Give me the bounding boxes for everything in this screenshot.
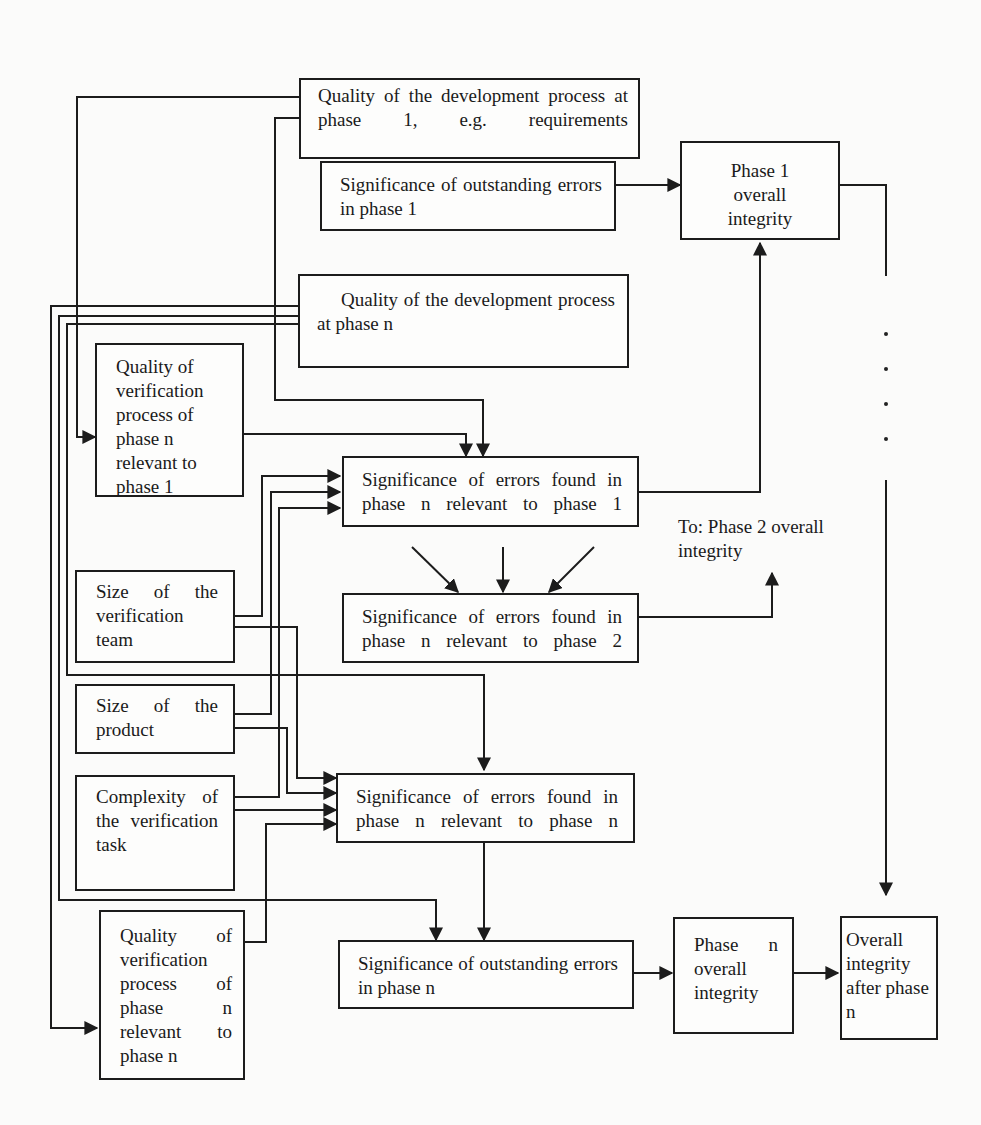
to-phase2-label: To: Phase 2 overall integrity — [678, 515, 848, 563]
box-label: Phase n overall integrity — [694, 933, 778, 1005]
box-outstanding-phase1: Significance of outstanding errors in ph… — [320, 161, 616, 231]
arrow-rel1-rel2-left — [412, 547, 458, 592]
box-phasen-integrity: Phase n overall integrity — [673, 917, 794, 1034]
box-errors-found-reln: Significance of errors found in phase n … — [336, 773, 635, 843]
line-product-to-reln — [233, 728, 336, 793]
box-label: Significance of errors found in phase n … — [362, 468, 622, 516]
box-dev-quality-phasen: Quality of the development process at ph… — [298, 274, 629, 368]
box-outstanding-phasen: Significance of outstanding errors in ph… — [338, 940, 634, 1009]
box-label: Complexity of the verification task — [96, 785, 218, 857]
box-label: Size of the product — [96, 694, 218, 742]
box-verif-quality-rel1: Quality of verification process of phase… — [95, 343, 244, 497]
box-label: Quality of the development process at ph… — [317, 288, 615, 336]
box-label: Quality of verification process of phase… — [120, 924, 232, 1068]
box-product-size: Size of the product — [75, 684, 235, 754]
box-errors-found-rel1: Significance of errors found in phase n … — [342, 456, 639, 527]
box-verif-quality-reln: Quality of verification process of phase… — [99, 910, 245, 1080]
box-dev-quality-phase1: Quality of the development process at ph… — [299, 78, 640, 159]
line-team-to-rel1 — [233, 476, 340, 616]
box-phase1-integrity: Phase 1 overall integrity — [680, 141, 840, 240]
ellipsis-dot — [884, 437, 888, 441]
arrow-rel2-to-phase2 — [638, 573, 772, 617]
box-verif-team-size: Size of the verification team — [75, 570, 235, 663]
box-label: Quality of the development process at ph… — [318, 84, 628, 132]
box-label: Quality of verification process of phase… — [116, 355, 231, 499]
line-team-to-reln — [233, 627, 336, 778]
arrow-rel1-rel2-right — [549, 547, 594, 592]
ellipsis-dot — [884, 367, 888, 371]
line-phase1-to-overall — [839, 185, 886, 276]
box-label: Significance of outstanding errors in ph… — [340, 173, 602, 221]
box-errors-found-rel2: Significance of errors found in phase n … — [342, 593, 639, 663]
line-product-to-rel1 — [233, 492, 340, 714]
box-label: Size of the verification team — [96, 580, 218, 652]
ellipsis-dot — [884, 332, 888, 336]
box-label: Significance of errors found in phase n … — [362, 605, 622, 653]
arrow-rel1-to-phase1 — [638, 243, 760, 492]
line-verifq1-to-rel1 — [243, 434, 466, 456]
box-label: Significance of outstanding errors in ph… — [358, 952, 618, 1000]
ellipsis-dot — [884, 402, 888, 406]
line-verifqn-to-reln — [243, 824, 336, 942]
box-label: Significance of errors found in phase n … — [356, 785, 618, 833]
box-label: Phase 1 overall integrity — [706, 159, 814, 231]
box-verif-complexity: Complexity of the verification task — [75, 775, 235, 891]
box-overall-after-n: Overall integrity after phase n — [840, 916, 938, 1040]
box-label: Overall integrity after phase n — [846, 928, 932, 1024]
